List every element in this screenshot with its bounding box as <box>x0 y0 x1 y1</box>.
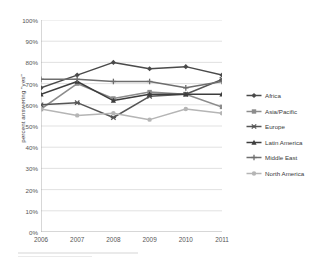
series-north-america <box>41 107 222 122</box>
y-axis-tick: 70% <box>12 80 38 87</box>
legend-item-middle-east[interactable]: Middle East <box>246 150 320 166</box>
y-axis-tick: 20% <box>12 186 38 193</box>
legend-item-label: Latin America <box>265 139 303 146</box>
legend-item-label: North America <box>265 170 304 177</box>
legend-item-europe[interactable]: Europe <box>246 119 320 135</box>
y-axis-tick-labels: 0%10%20%30%40%50%60%70%80%90%100% <box>8 0 38 264</box>
y-axis-tick: 100% <box>12 17 38 24</box>
legend-item-latin-america[interactable]: Latin America <box>246 135 320 151</box>
x-axis-tick: 2008 <box>106 236 120 243</box>
chart-svg <box>41 20 222 232</box>
caption-placeholder <box>18 252 138 258</box>
y-axis-tick: 0% <box>12 229 38 236</box>
legend-item-asia-pacific[interactable]: Asia/Pacific <box>246 104 320 120</box>
legend-marker-icon <box>246 169 262 178</box>
legend-marker-icon <box>246 91 262 100</box>
line-chart: percent answering "yes" 0%10%20%30%40%50… <box>0 0 321 264</box>
x-axis-tick: 2010 <box>179 236 193 243</box>
y-axis-tick: 80% <box>12 59 38 66</box>
legend-marker-icon <box>246 122 262 131</box>
legend-item-north-america[interactable]: North America <box>246 166 320 182</box>
legend-marker-icon <box>246 138 262 147</box>
legend-item-label: Africa <box>265 92 281 99</box>
y-axis-tick: 10% <box>12 207 38 214</box>
y-axis-tick: 50% <box>12 123 38 130</box>
y-axis-tick: 40% <box>12 144 38 151</box>
y-axis-tick: 60% <box>12 101 38 108</box>
legend-item-label: Middle East <box>265 154 297 161</box>
chart-legend: AfricaAsia/PacificEuropeLatin AmericaMid… <box>246 88 320 181</box>
legend-item-africa[interactable]: Africa <box>246 88 320 104</box>
legend-marker-icon <box>246 107 262 116</box>
legend-item-label: Asia/Pacific <box>265 108 297 115</box>
x-axis-tick: 2009 <box>142 236 156 243</box>
legend-marker-icon <box>246 153 262 162</box>
plot-area <box>41 20 222 232</box>
x-axis-tick: 2006 <box>34 236 48 243</box>
y-axis-tick: 90% <box>12 38 38 45</box>
legend-item-label: Europe <box>265 123 285 130</box>
x-axis-tick: 2007 <box>70 236 84 243</box>
x-axis-tick: 2011 <box>215 236 229 243</box>
y-axis-tick: 30% <box>12 165 38 172</box>
